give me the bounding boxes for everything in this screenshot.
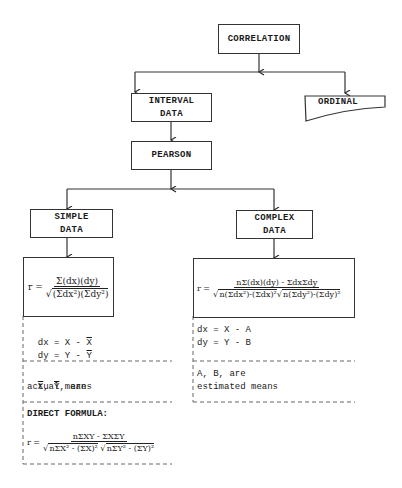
direct-formula-label: DIRECT FORMULA: — [27, 408, 108, 421]
direct-formula-denominator-a: nΣX² - (ΣX)² — [48, 443, 97, 453]
complex-formula-fraction: nΣ(dx)(dy) - ΣdxΣdy √n(Σdx²)-(Σdx)²√n(Σd… — [213, 278, 340, 299]
correlation-node: CORRELATION — [218, 24, 300, 54]
direct-formula-denominator-b: nΣY² - (ΣY)² — [106, 443, 154, 453]
simple-formula-numerator: Σ(dx)(dy) — [54, 276, 100, 287]
interval-label-line2: DATA — [160, 108, 183, 121]
correlation-label: CORRELATION — [228, 33, 291, 46]
complex-dy-definition: dy = Y - B — [197, 337, 251, 350]
sqrt-icon: √ — [100, 443, 105, 453]
simple-label-line1: SIMPLE — [54, 211, 88, 224]
direct-formula-numerator: nΣXY - ΣXΣY — [71, 432, 127, 442]
complex-formula-denominator-a: n(Σdx²)-(Σdx)² — [218, 289, 276, 299]
simple-data-node: SIMPLE DATA — [30, 209, 113, 238]
interval-data-node: INTERVAL DATA — [131, 93, 212, 122]
complex-formula-box: r = nΣ(dx)(dy) - ΣdxΣdy √n(Σdx²)-(Σdx)²√… — [193, 258, 355, 318]
complex-formula-lhs: r = — [197, 284, 210, 293]
complex-means-note: A, B, are — [197, 368, 246, 381]
complex-dx-definition: dx = X - A — [197, 324, 251, 337]
simple-means-note-line2: actual means — [27, 381, 92, 394]
interval-label-line1: INTERVAL — [149, 95, 195, 108]
simple-dy-definition: dy = Y - Y — [27, 337, 92, 363]
direct-formula: r = nΣXY - ΣXΣY √nΣX² - (ΣX)² √nΣY² - (Σ… — [26, 424, 172, 460]
pearson-node: PEARSON — [131, 141, 212, 170]
complex-formula-numerator: nΣ(dx)(dy) - ΣdxΣdy — [234, 278, 319, 288]
direct-formula-lhs: r = — [27, 438, 40, 447]
ordinal-label: ORDINAL — [318, 97, 358, 107]
complex-means-note-line2: estimated means — [197, 381, 278, 394]
simple-formula-box: r = Σ(dx)(dy) √(Σdx²)(Σdy²) — [23, 257, 114, 317]
simple-label-line2: DATA — [60, 224, 83, 237]
sqrt-icon: √ — [46, 288, 52, 299]
ordinal-node: ORDINAL — [318, 97, 358, 107]
simple-formula-lhs: r = — [28, 282, 43, 292]
complex-data-node: COMPLEX DATA — [236, 210, 313, 239]
complex-label-line1: COMPLEX — [255, 212, 295, 225]
complex-label-line2: DATA — [263, 225, 286, 238]
simple-formula-denominator: (Σdx²)(Σdy²) — [52, 288, 109, 299]
direct-formula-fraction: nΣXY - ΣXΣY √nΣX² - (ΣX)² √nΣY² - (ΣY)² — [43, 432, 154, 453]
complex-formula-denominator-b: n(Σdy²)-(Σdy)² — [282, 289, 340, 299]
simple-formula-fraction: Σ(dx)(dy) √(Σdx²)(Σdy²) — [46, 276, 109, 299]
pearson-label: PEARSON — [152, 149, 192, 162]
